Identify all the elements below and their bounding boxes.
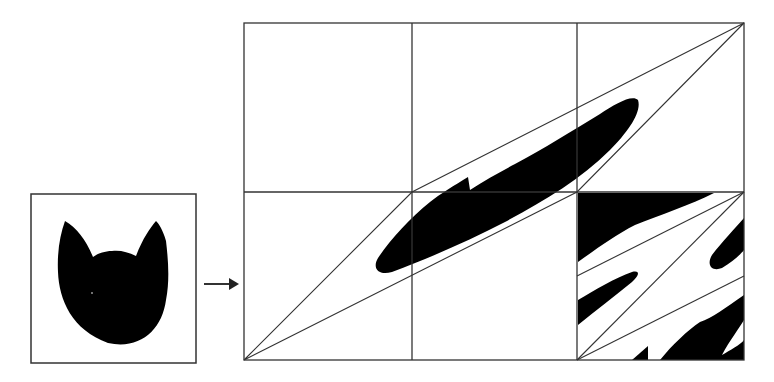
cat-eye-dot (91, 292, 93, 294)
cat-map-diagram (0, 0, 774, 382)
source-panel (31, 194, 196, 363)
wrapped-pieces (578, 193, 744, 360)
cat-head-icon (58, 221, 169, 344)
mapping-arrow (204, 278, 239, 290)
target-panel (244, 23, 744, 360)
